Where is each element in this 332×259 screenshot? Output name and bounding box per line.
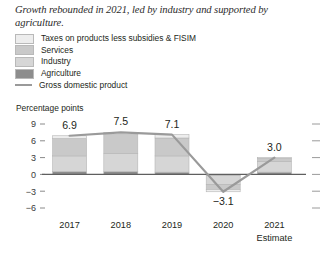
right-axis-ticks <box>312 124 320 208</box>
x-axis-labels: 20172018201920202021Estimate <box>59 220 292 243</box>
data-label: 7.1 <box>165 118 180 130</box>
y-tick-label: −3 <box>26 187 36 197</box>
data-label: 7.5 <box>113 115 128 127</box>
bar-segment <box>155 156 189 172</box>
bar-segment <box>206 184 240 189</box>
bar-segment <box>104 154 138 172</box>
y-tick-label: 6 <box>31 136 36 146</box>
bar-segment <box>53 156 87 172</box>
y-tick-label: −6 <box>26 203 36 213</box>
figure-root: Growth rebounded in 2021, led by industr… <box>0 0 332 259</box>
x-tick-label: 2018 <box>111 220 131 230</box>
x-tick-sublabel: Estimate <box>257 233 293 243</box>
chart-svg: 9630−3−6 6.97.57.1−3.13.0 20172018201920… <box>0 0 332 259</box>
bar-segment <box>104 135 138 154</box>
chart-plot-area: 9630−3−6 6.97.57.1−3.13.0 20172018201920… <box>0 0 332 259</box>
x-tick-label: 2021 <box>264 220 284 230</box>
y-tick-label: 0 <box>31 170 36 180</box>
x-tick-label: 2020 <box>213 220 233 230</box>
bar-group <box>53 132 292 191</box>
data-label: −3.1 <box>213 195 234 207</box>
x-tick-label: 2017 <box>59 220 79 230</box>
data-label: 3.0 <box>267 141 282 153</box>
y-axis-ticks: 9630−3−6 <box>26 119 45 213</box>
bar-segment <box>53 139 87 156</box>
x-tick-label: 2019 <box>162 220 182 230</box>
y-tick-label: 3 <box>31 153 36 163</box>
y-tick-label: 9 <box>31 119 36 129</box>
data-label: 6.9 <box>62 119 77 131</box>
